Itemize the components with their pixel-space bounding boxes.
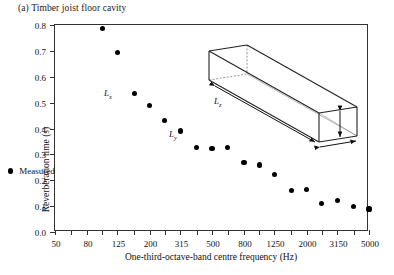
y-axis-tick: 0.6 [50,77,55,78]
y-axis-tick-label: 0.3 [35,150,46,160]
x-axis-tick-label: 2000 [299,239,317,249]
y-axis-tick-label: 0.5 [35,99,46,109]
data-point [162,118,167,123]
data-point [132,91,137,96]
data-point [100,26,105,31]
x-axis-tick [259,230,260,235]
y-axis-tick-label: 0.6 [35,73,46,83]
y-axis-tick-label: 0.0 [35,228,46,238]
x-axis-tick-label: 5000 [361,239,379,249]
data-point [178,128,183,133]
figure-caption: (a) Timber joist floor cavity [18,3,126,13]
y-axis-tick-label: 0.7 [35,47,46,57]
y-axis-tick: 0.4 [50,129,55,130]
y-axis-tick-label: 0.4 [35,125,46,135]
x-axis-tick: 800 [244,230,245,235]
dimension-label-ly: Ly [169,129,177,141]
x-axis-tick-label: 800 [238,239,252,249]
x-axis-tick-label: 315 [175,239,189,249]
y-axis-tick: 0.8 [50,25,55,26]
dimension-label-lz: Lz [214,96,222,108]
data-point [366,206,371,211]
x-axis-tick-label: 80 [84,239,93,249]
x-axis-tick-label: 50 [52,239,61,249]
chart-legend: Measured [8,166,55,176]
data-point [289,188,294,193]
chart-figure: (a) Timber joist floor cavity Reverberat… [0,0,394,275]
x-axis-tick [291,230,292,235]
data-point [241,160,246,165]
data-point [351,204,356,209]
x-axis-tick [197,230,198,235]
dimension-label-lx: Lx [104,88,112,100]
x-axis-tick: 125 [117,230,118,235]
y-axis-tick: 0.5 [50,103,55,104]
plot-area: 0.00.10.20.30.40.50.60.70.8 508012520031… [54,24,368,231]
legend-label: Measured [19,166,55,176]
x-axis-title: One-third-octave-band centre frequency (… [54,252,368,262]
y-axis-tick: 0.7 [50,51,55,52]
x-axis-tick-label: 500 [206,239,220,249]
x-axis-tick [102,230,103,235]
x-axis-tick [322,230,323,235]
x-axis-tick: 315 [180,230,181,235]
legend-marker-icon [8,168,13,173]
x-axis-tick: 3150 [337,230,338,235]
y-axis-tick-label: 0.2 [35,176,46,186]
y-axis-tick: 0.1 [50,206,55,207]
x-axis-tick: 5000 [369,230,370,235]
x-axis-tick: 80 [87,230,88,235]
x-axis-tick-label: 200 [144,239,158,249]
data-point [304,187,309,192]
x-axis-tick [134,230,135,235]
y-axis-tick-label: 0.8 [35,21,46,31]
x-axis-tick [354,230,355,235]
x-axis-tick-label: 1250 [266,239,284,249]
y-axis-tick-label: 0.1 [35,202,46,212]
y-axis-tick: 0.3 [50,154,55,155]
data-point [319,201,324,206]
data-point [209,146,214,151]
data-point [115,50,120,55]
data-point [335,198,340,203]
x-axis-tick [228,230,229,235]
x-axis-tick: 200 [150,230,151,235]
data-point [257,162,262,167]
data-point [225,145,230,150]
data-point [147,103,152,108]
x-axis-tick-label: 3150 [329,239,347,249]
y-axis-tick: 0.2 [50,180,55,181]
x-axis-tick: 500 [212,230,213,235]
data-point [272,172,277,177]
x-axis-tick: 50 [55,230,56,235]
x-axis-tick [71,230,72,235]
x-axis-tick [165,230,166,235]
data-point [194,145,199,150]
x-axis-tick: 1250 [274,230,275,235]
x-axis-tick-label: 125 [112,239,126,249]
x-axis-tick: 2000 [307,230,308,235]
